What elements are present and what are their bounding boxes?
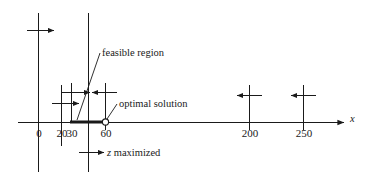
tick-label-30: 30 <box>63 128 81 139</box>
optimal-solution-marker <box>102 119 108 125</box>
optimal-solution-leader-line <box>107 104 117 119</box>
linear-programming-number-line-figure: 0 20 30 60 200 250 x feasible region opt… <box>0 0 370 185</box>
constraint-line-30 <box>62 83 90 123</box>
optimal-solution-label: optimal solution <box>119 99 188 110</box>
z-maximized-symbol: z <box>107 147 111 158</box>
tick-label-60: 60 <box>97 128 115 139</box>
tick-label-200: 200 <box>238 128 262 139</box>
x-axis-label: x <box>350 114 355 125</box>
z-maximized-text: maximized <box>114 147 161 158</box>
constraint-line-250 <box>291 85 316 130</box>
tick-label-0: 0 <box>30 128 48 139</box>
optimal-solution-circle <box>102 119 108 125</box>
figure-canvas <box>0 0 370 185</box>
tick-label-250: 250 <box>292 128 316 139</box>
feasible-region-label: feasible region <box>102 48 164 59</box>
z-maximized-label: z maximized <box>107 148 160 159</box>
constraint-line-200 <box>237 85 262 130</box>
constraint-line-0 <box>27 13 54 172</box>
optimal-solution-leader <box>107 104 117 119</box>
